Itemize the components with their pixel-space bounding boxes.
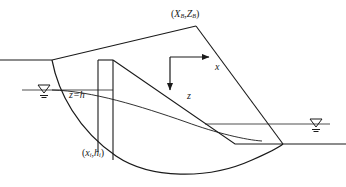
slope-stability-figure: (XB,ZB) (xi,hi) z=h x z xyxy=(0,0,346,187)
water-table-symbol-right xyxy=(310,119,322,132)
figure-canvas xyxy=(0,0,346,187)
crest-coordinate-label: (XB,ZB) xyxy=(171,9,199,20)
soil-slice-group xyxy=(98,60,113,160)
ground-outline-group xyxy=(0,26,346,144)
water-table-symbol-left xyxy=(38,85,50,98)
slice-base-coordinate-label: (xi,hi) xyxy=(82,148,104,159)
excavated-slope-face xyxy=(113,60,283,144)
x-axis-label: x xyxy=(215,62,219,72)
slope-crest-ramp xyxy=(52,26,196,60)
water-depth-label: z=h xyxy=(69,90,85,100)
coordinate-axes-group xyxy=(170,57,209,90)
paren-close: ) xyxy=(101,147,104,158)
z-axis-label: z xyxy=(187,91,191,101)
water-table-triangle-icon xyxy=(310,119,322,127)
paren-close: ) xyxy=(196,8,199,19)
water-table-triangle-icon xyxy=(38,85,50,93)
